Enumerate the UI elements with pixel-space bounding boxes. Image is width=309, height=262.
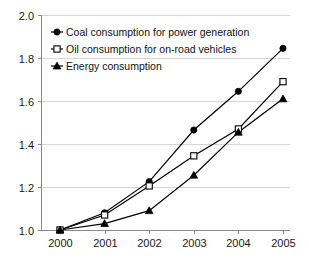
y-tick-label: 1.4 [19,139,34,151]
series-3 [60,99,283,230]
y-tick-label: 2.0 [19,10,34,22]
x-tick-label: 2002 [137,237,161,249]
legend-item-2: Oil consumption for on-road vehicles [51,43,236,55]
data-series [56,45,287,233]
y-tick-label: 1.2 [19,182,34,194]
x-tick-label: 2003 [182,237,206,249]
data-point-2-2001 [102,212,108,218]
legend-label-3: Energy consumption [66,60,162,72]
y-tick-label: 1.8 [19,53,34,65]
x-axis-tick-labels: 200020012002200320042005 [48,230,295,249]
data-point-legend-1 [54,29,60,35]
y-axis-tick-labels: 1.01.21.41.61.82.0 [19,10,41,237]
legend: Coal consumption for power generationOil… [51,26,249,72]
legend-item-1: Coal consumption for power generation [51,26,249,38]
legend-item-3: Energy consumption [51,60,162,72]
y-tick-label: 1.0 [19,225,34,237]
series-markers-3 [56,95,287,233]
chart-canvas: 1.01.21.41.61.82.0 200020012002200320042… [0,0,309,262]
series-markers-1 [57,45,286,233]
series-1 [60,48,283,230]
data-point-1-2004 [235,88,241,94]
data-point-2-2005 [280,79,286,85]
data-point-2-2003 [191,153,197,159]
y-tick-label: 1.6 [19,96,34,108]
x-tick-label: 2000 [48,237,72,249]
series-line-3 [60,99,283,230]
data-point-2-2002 [146,183,152,189]
data-point-legend-2 [54,46,60,52]
legend-label-1: Coal consumption for power generation [66,26,249,38]
series-line-1 [60,48,283,230]
x-tick-label: 2001 [93,237,117,249]
line-chart: 1.01.21.41.61.82.0 200020012002200320042… [0,0,309,262]
data-point-1-2005 [280,45,286,51]
data-point-1-2003 [191,127,197,133]
data-point-3-2005 [279,95,287,102]
x-tick-label: 2005 [271,237,295,249]
legend-label-2: Oil consumption for on-road vehicles [66,43,236,55]
x-tick-label: 2004 [226,237,250,249]
